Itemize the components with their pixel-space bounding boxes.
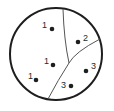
point-dot [76,40,81,45]
point-label: 2 [83,33,88,43]
point-label: 3 [61,80,66,90]
outer-circle [10,8,102,100]
point-dot [51,63,56,68]
point-dot [84,69,89,74]
point-dot [69,84,74,89]
point-dot [34,78,39,83]
point-label: 1 [28,71,33,81]
divider-1 [63,9,69,63]
partitioned-circle-diagram: 121133 [0,0,114,111]
point-label: 1 [44,56,49,66]
point-1: 2 [76,33,88,44]
point-2: 1 [44,56,55,67]
labeled-points: 121133 [28,20,96,90]
point-dot [50,27,55,32]
point-5: 3 [61,80,73,90]
point-4: 3 [84,61,96,73]
point-3: 1 [28,71,38,82]
point-label: 3 [91,61,96,71]
point-0: 1 [42,20,54,31]
point-label: 1 [42,20,47,30]
region-dividers [48,9,100,99]
